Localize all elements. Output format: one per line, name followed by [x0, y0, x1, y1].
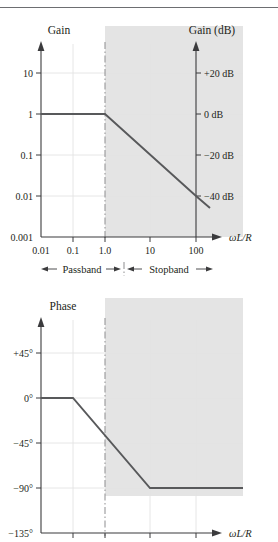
gain-ytick-0.01: 0.01: [16, 191, 34, 202]
xtick-100-gain: 100: [189, 245, 204, 256]
gain-ytick-0.001: 0.001: [11, 232, 34, 243]
stopband-left-arrowhead: [127, 266, 134, 271]
stopband-shading-phase: [105, 298, 243, 496]
passband-label: Passband: [62, 264, 102, 275]
gain-axis-title: Gain: [48, 24, 71, 36]
figure-page: Gain Gain (dB) 10 1 0.1 0.01 0.001 +20 d…: [0, 0, 278, 542]
phase-ytick-neg90: −90°: [13, 483, 33, 494]
gain-dbtick-0: 0 dB: [204, 109, 224, 120]
phase-y-axis-arrow: [38, 317, 45, 327]
xtick-10-gain: 10: [145, 245, 155, 256]
phase-ytick-0: 0°: [24, 393, 33, 404]
xtick-0.01-gain: 0.01: [32, 245, 50, 256]
xtick-1.0-gain: 1.0: [99, 245, 112, 256]
page-header-fragment: [0, 0, 278, 6]
gain-dbtick-minus40: −40 dB: [204, 191, 234, 202]
gain-dbtick-minus20: −20 dB: [204, 150, 234, 161]
phase-plot: Phase +45° 0° −45° −90° −135° ωL/R 0.01 …: [0, 286, 278, 542]
gain-ytick-10: 10: [23, 68, 33, 79]
gain-dbtick-plus20: +20 dB: [204, 68, 234, 79]
phase-axis-title: Phase: [50, 300, 77, 312]
stopband-right-arrowhead: [206, 266, 213, 271]
phase-ytick-neg135: −135°: [8, 528, 33, 539]
phase-plot-svg: Phase +45° 0° −45° −90° −135° ωL/R 0.01 …: [0, 286, 278, 542]
gain-db-axis-title: Gain (dB): [189, 24, 235, 37]
passband-right-arrowhead: [114, 266, 121, 271]
phase-x-axis-arrow: [212, 530, 222, 537]
passband-left-arrowhead: [41, 266, 48, 271]
gain-plot-svg: Gain Gain (dB) 10 1 0.1 0.01 0.001 +20 d…: [0, 14, 278, 286]
gain-ytick-0.1: 0.1: [21, 150, 34, 161]
gain-ytick-1: 1: [28, 109, 33, 120]
gain-x-axis-label: ωL/R: [229, 232, 252, 243]
phase-x-axis-label: ωL/R: [229, 528, 252, 539]
gain-y-axis-arrow: [38, 41, 45, 51]
phase-ytick-neg45: −45°: [13, 438, 33, 449]
phase-ytick-plus45: +45°: [13, 348, 33, 359]
gain-plot: Gain Gain (dB) 10 1 0.1 0.01 0.001 +20 d…: [0, 14, 278, 286]
header-divider: [0, 7, 278, 8]
xtick-0.1-gain: 0.1: [67, 245, 80, 256]
stopband-label: Stopband: [149, 264, 189, 275]
